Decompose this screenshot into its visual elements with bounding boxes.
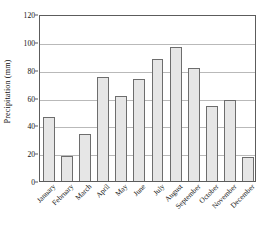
y-axis-tick-label: 80	[27, 66, 35, 75]
bar-may	[115, 96, 127, 181]
y-axis-tick-label: 120	[24, 11, 35, 20]
y-axis-tick-mark	[35, 70, 38, 71]
y-axis-tick-mark	[35, 98, 38, 99]
bar-series	[40, 16, 255, 181]
y-axis-tick-label: 60	[27, 94, 35, 103]
y-axis-tick-labels: 020406080100120	[16, 0, 38, 182]
y-axis-tick-mark	[35, 182, 38, 183]
y-axis-tick-label: 40	[27, 122, 35, 131]
x-axis-tick-labels: JanuaryFebruaryMarchAprilMayJuneJulyAugu…	[39, 182, 256, 228]
bar-august	[170, 47, 182, 181]
bar-april	[97, 77, 109, 181]
precipitation-bar-chart: Precipitation (mm) 020406080100120 Janua…	[0, 0, 266, 228]
y-axis-tick-label: 100	[24, 38, 35, 47]
y-axis-tick-mark	[35, 154, 38, 155]
y-axis-tick-mark	[35, 126, 38, 127]
bar-july	[152, 59, 164, 181]
y-axis-tick-mark	[35, 15, 38, 16]
y-axis-title: Precipitation (mm)	[0, 0, 16, 182]
x-axis-tick-label-text: May	[114, 182, 130, 198]
y-axis-tick-label: 20	[27, 150, 35, 159]
plot-area	[39, 15, 256, 182]
bar-june	[133, 79, 145, 181]
bar-january	[43, 117, 55, 181]
x-axis-tick-label-text: June	[132, 182, 148, 198]
y-axis-tick-mark	[35, 42, 38, 43]
bar-september	[188, 68, 200, 181]
y-axis-title-text: Precipitation (mm)	[4, 59, 13, 123]
